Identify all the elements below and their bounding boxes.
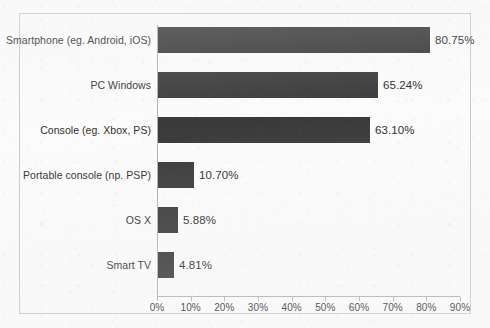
chart-frame: Smartphone (eg. Android, iOS) 80.75% PC …: [19, 13, 471, 314]
x-axis-tick-label: 0%: [150, 302, 165, 313]
bar: [158, 117, 370, 143]
bar: [158, 207, 178, 233]
category-label: Portable console (np. PSP): [23, 169, 151, 181]
x-axis-tick: [191, 297, 192, 301]
x-axis-tick: [157, 297, 158, 301]
value-axis-line: [157, 296, 460, 297]
x-axis-tick-label: 20%: [214, 302, 234, 313]
category-label: Console (eg. Xbox, PS): [40, 124, 151, 136]
x-axis-tick-label: 60%: [349, 302, 369, 313]
bar: [158, 27, 430, 53]
x-axis-tick: [426, 297, 427, 301]
plot-area: Smartphone (eg. Android, iOS) 80.75% PC …: [157, 25, 460, 296]
x-axis-tick: [292, 297, 293, 301]
bar-value-label: 10.70%: [199, 169, 239, 181]
x-axis-tick-label: 10%: [181, 302, 201, 313]
x-axis-tick: [325, 297, 326, 301]
x-axis-tick: [393, 297, 394, 301]
bar-value-label: 5.88%: [183, 214, 216, 226]
x-axis-tick-label: 30%: [248, 302, 268, 313]
category-label: PC Windows: [90, 79, 151, 91]
x-axis-tick: [224, 297, 225, 301]
x-axis-tick: [460, 297, 461, 301]
x-axis-tick-label: 40%: [282, 302, 302, 313]
x-axis-tick-label: 70%: [383, 302, 403, 313]
category-label: OS X: [126, 214, 151, 226]
x-axis-tick: [258, 297, 259, 301]
bar: [158, 252, 174, 278]
bar-value-label: 80.75%: [435, 34, 475, 46]
x-axis-tick-label: 80%: [416, 302, 436, 313]
bar: [158, 72, 378, 98]
category-label: Smart TV: [106, 259, 151, 271]
bar-value-label: 65.24%: [383, 79, 423, 91]
x-axis-tick-label: 50%: [315, 302, 335, 313]
bar: [158, 162, 194, 188]
bar-value-label: 63.10%: [375, 124, 415, 136]
bar-value-label: 4.81%: [179, 259, 212, 271]
x-axis-tick-label: 90%: [450, 302, 470, 313]
x-axis-tick: [359, 297, 360, 301]
category-label: Smartphone (eg. Android, iOS): [6, 34, 151, 46]
